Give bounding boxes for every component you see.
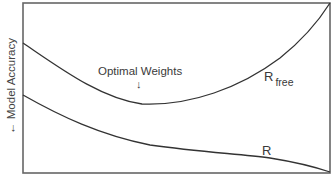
- r-free-label: Rfree: [264, 69, 293, 88]
- r-free-subscript: free: [275, 76, 293, 88]
- r-free-curve: [23, 3, 330, 104]
- diagram-canvas: [0, 0, 332, 182]
- optimal-weights-annotation: Optimal Weights: [98, 65, 182, 77]
- r-free-main: R: [264, 69, 273, 84]
- r-label: R: [262, 143, 271, 158]
- y-axis-label: ← Model Accuracy: [5, 36, 17, 136]
- plot-frame: [23, 3, 330, 173]
- arrow-down-icon: ↓: [136, 78, 142, 90]
- r-curve: [23, 95, 330, 172]
